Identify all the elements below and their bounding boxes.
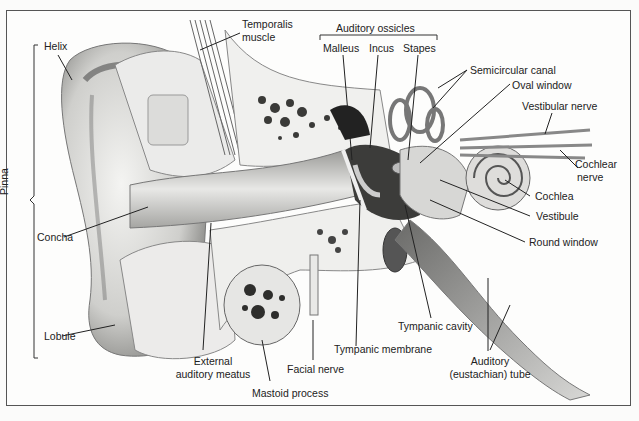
label-malleus: Malleus <box>323 42 359 54</box>
label-tympanic-cavity: Tympanic cavity <box>398 320 473 332</box>
label-external-auditory-meatus-line2: auditory meatus <box>168 368 258 380</box>
ossicles-brace <box>320 35 437 40</box>
label-tympanic-membrane: Tympanic membrane <box>334 343 432 355</box>
label-oval-window: Oval window <box>512 79 572 91</box>
label-incus: Incus <box>369 42 394 54</box>
label-concha: Concha <box>37 231 73 243</box>
label-auditory-ossicles: Auditory ossicles <box>336 22 415 34</box>
label-temporalis-muscle-line1: Temporalis <box>242 18 293 30</box>
label-lobule: Lobule <box>44 330 76 342</box>
label-cochlea: Cochlea <box>535 190 574 202</box>
semicircular-canals <box>390 88 443 141</box>
label-mastoid-process: Mastoid process <box>252 387 328 399</box>
label-round-window: Round window <box>529 236 598 248</box>
pinna-brace <box>30 45 38 358</box>
label-auditory-tube-line2: (eustachian) tube <box>445 368 535 380</box>
label-stapes: Stapes <box>403 42 436 54</box>
label-pinna: Pinna <box>0 168 10 195</box>
label-vestibule: Vestibule <box>536 210 579 222</box>
label-semicircular-canal: Semicircular canal <box>470 64 556 76</box>
label-temporalis-muscle-line2: muscle <box>242 31 275 43</box>
label-helix: Helix <box>44 40 67 52</box>
label-cochlear-nerve-line2: nerve <box>577 171 603 183</box>
label-auditory-tube-line1: Auditory <box>445 355 535 367</box>
label-facial-nerve: Facial nerve <box>287 363 344 375</box>
label-vestibular-nerve: Vestibular nerve <box>522 100 597 112</box>
label-cochlear-nerve-line1: Cochlear <box>575 158 617 170</box>
label-external-auditory-meatus-line1: External <box>168 355 258 367</box>
facial-nerve-shape <box>310 255 318 315</box>
